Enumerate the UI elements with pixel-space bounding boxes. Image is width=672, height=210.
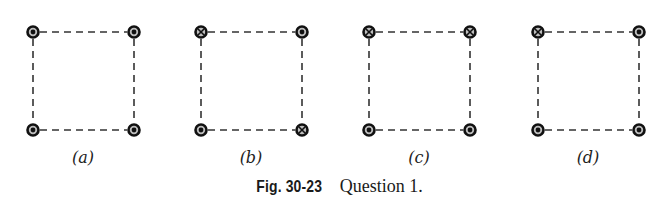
current-out-dot-icon-top-right	[129, 27, 140, 38]
panel-label: (b)	[167, 148, 335, 167]
current-in-cross-icon-top-left	[196, 27, 207, 38]
panel-a: (a)	[0, 0, 168, 172]
current-out-dot-icon-top-right	[634, 27, 645, 38]
current-in-cross-icon-top-left	[533, 27, 544, 38]
square-loop-diagram	[168, 0, 336, 148]
panel-label: (c)	[335, 148, 503, 167]
panel-d: (d)	[504, 0, 672, 172]
current-out-dot-icon-bottom-left	[364, 125, 375, 136]
current-in-cross-icon-bottom-right	[297, 125, 308, 136]
current-out-dot-icon-bottom-left	[28, 125, 39, 136]
square-loop-diagram	[0, 0, 168, 148]
current-out-dot-icon-bottom-left	[533, 125, 544, 136]
current-out-dot-icon-bottom-left	[196, 125, 207, 136]
current-out-dot-icon-bottom-right	[465, 125, 476, 136]
current-out-dot-icon-bottom-right	[129, 125, 140, 136]
current-in-cross-icon-top-left	[364, 27, 375, 38]
panel-b: (b)	[168, 0, 336, 172]
panel-label: (a)	[0, 148, 167, 167]
figure-number: Fig. 30-23	[256, 177, 322, 197]
current-out-dot-icon-top-right	[297, 27, 308, 38]
panel-c: (c)	[336, 0, 504, 172]
current-out-dot-icon-top-left	[28, 27, 39, 38]
square-loop-diagram	[336, 0, 504, 148]
figure-caption-text: Question 1.	[340, 176, 423, 196]
figure-caption: Fig. 30-23 Question 1.	[0, 176, 672, 197]
current-out-dot-icon-bottom-right	[634, 125, 645, 136]
current-in-cross-icon-top-right	[465, 27, 476, 38]
panel-label: (d)	[504, 148, 672, 167]
square-loop-diagram	[504, 0, 672, 148]
